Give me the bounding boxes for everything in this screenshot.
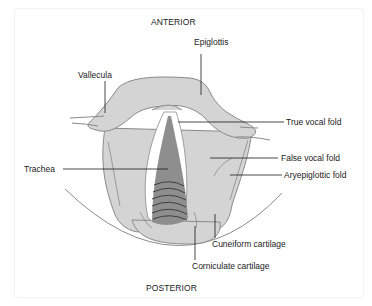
anterior-label: ANTERIOR: [151, 18, 196, 27]
true-vocal-fold-label: True vocal fold: [286, 118, 341, 127]
false-vocal-fold-label: False vocal fold: [281, 154, 340, 163]
aryepiglottic-fold-label: Aryepiglottic fold: [284, 171, 346, 180]
cuneiform-cartilage-label: Cuneiform cartilage: [212, 240, 286, 249]
epiglottis-label: Epiglottis: [194, 38, 229, 47]
posterior-label: POSTERIOR: [146, 284, 197, 293]
corniculate-cartilage-label: Corniculate cartilage: [192, 262, 269, 271]
vallecula-label: Vallecula: [78, 71, 112, 80]
trachea-label: Trachea: [24, 165, 55, 174]
